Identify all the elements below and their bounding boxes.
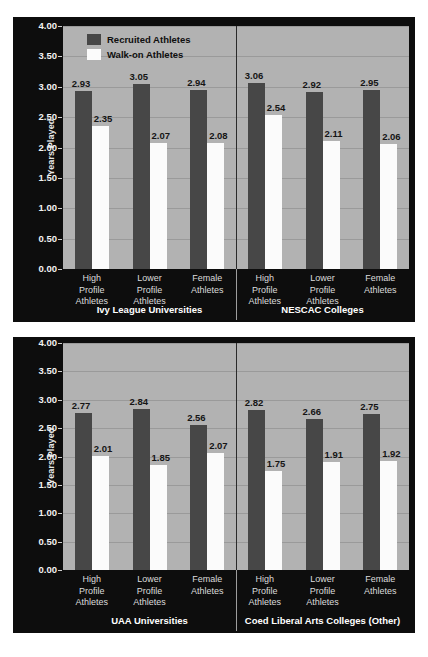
bar-walkon [207,453,224,570]
bar-value-label: 2.54 [267,103,286,113]
bar-walkon [207,143,224,269]
y-axis-tick-mark [58,485,62,486]
bar-value-label: 2.35 [94,114,113,124]
legend-item: Walk-on Athletes [87,48,191,61]
bar-value-label: 2.82 [245,398,264,408]
bar-value-label: 2.08 [209,131,228,141]
bar-value-label: 2.93 [72,79,91,89]
y-axis-tick-label: 1.00 [19,509,57,519]
bar-walkon [265,115,282,269]
legend-swatch-recruited [87,34,101,45]
bar-recruited [75,413,92,570]
bar-recruited [75,91,92,269]
legend-label: Walk-on Athletes [107,49,183,60]
y-axis-tick-mark [58,371,62,372]
x-axis-category-label: Female Athletes [351,273,409,296]
bar-value-label: 2.66 [303,407,322,417]
bar-recruited [248,410,265,570]
y-axis-tick-label: 4.00 [19,338,57,348]
y-axis-tick-mark [58,428,62,429]
y-axis-tick-label: 0.50 [19,234,57,244]
bar-walkon [92,126,109,269]
legend-swatch-walkon [87,49,101,60]
x-axis-category-label: Female Athletes [178,273,236,296]
x-axis-category-label: Female Athletes [178,574,236,597]
y-axis-tick-label: 4.00 [19,21,57,31]
bar-value-label: 2.06 [382,132,401,142]
y-axis-tick-mark [58,148,62,149]
y-axis-tick-label: 3.00 [19,82,57,92]
group-title: UAA Universities [63,615,236,626]
y-axis-tick-label: 3.00 [19,395,57,405]
bar-value-label: 2.07 [209,441,228,451]
bar-walkon [92,456,109,570]
bar-recruited [190,425,207,570]
bar-value-label: 2.94 [187,78,206,88]
bar-value-label: 2.01 [94,444,113,454]
bar-recruited [363,90,380,269]
bar-walkon [380,461,397,570]
bar-walkon [150,465,167,570]
bar-value-label: 2.77 [72,401,91,411]
bar-value-label: 3.05 [130,72,149,82]
legend-item: Recruited Athletes [87,33,191,46]
y-axis-tick-label: 3.50 [19,52,57,62]
y-axis-tick-mark [58,178,62,179]
x-axis-category-label: High Profile Athletes [63,574,121,609]
y-axis-tick-label: 1.50 [19,480,57,490]
y-axis-tick-mark [58,542,62,543]
y-axis-tick-label: 2.50 [19,423,57,433]
bar-recruited [306,92,323,269]
y-axis-tick-mark [58,457,62,458]
y-axis-tick-mark [58,26,62,27]
y-axis-tick-label: 0.50 [19,537,57,547]
bar-value-label: 1.85 [152,453,171,463]
chart-legend: Recruited AthletesWalk-on Athletes [87,33,191,63]
bar-value-label: 2.07 [152,131,171,141]
y-axis-tick-mark [58,513,62,514]
y-axis-tick-mark [58,570,62,571]
y-axis-tick-mark [58,269,62,270]
bar-walkon [323,462,340,570]
y-axis-tick-label: 2.00 [19,143,57,153]
bar-value-label: 1.91 [325,450,344,460]
bar-value-label: 3.06 [245,71,264,81]
y-axis-tick-mark [58,239,62,240]
group-title: Ivy League Universities [63,304,236,315]
bar-value-label: 2.92 [303,80,322,90]
bar-walkon [265,471,282,570]
y-axis-tick-mark [58,56,62,57]
panel-divider [236,343,237,570]
x-axis-category-label: High Profile Athletes [236,574,294,609]
y-axis-tick-label: 2.50 [19,112,57,122]
y-axis-tick-mark [58,117,62,118]
x-axis-category-label: Lower Profile Athletes [121,574,179,609]
bar-value-label: 2.84 [130,397,149,407]
y-axis-tick-mark [58,400,62,401]
bar-value-label: 1.92 [382,449,401,459]
x-axis-category-label: Lower Profile Athletes [294,574,352,609]
bar-value-label: 2.56 [187,413,206,423]
y-axis-tick-label: 0.00 [19,565,57,575]
x-axis-category-label: Female Athletes [351,574,409,597]
y-axis-tick-label: 1.50 [19,173,57,183]
legend-label: Recruited Athletes [107,34,191,45]
x-axis-category-label: Lower Profile Athletes [121,273,179,308]
y-axis-tick-mark [58,208,62,209]
bar-value-label: 1.75 [267,459,286,469]
panel-divider [236,26,237,269]
y-axis-tick-label: 1.00 [19,204,57,214]
y-axis-tick-mark [58,343,62,344]
bar-recruited [306,419,323,570]
plot-area: 2.772.012.841.852.562.072.821.752.661.91… [63,343,409,570]
x-axis-category-label: Lower Profile Athletes [294,273,352,308]
bar-walkon [150,143,167,269]
group-title: NESCAC Colleges [236,304,409,315]
bar-value-label: 2.95 [360,78,379,88]
y-axis-tick-label: 3.50 [19,367,57,377]
chart-panel-1: Years Played2.932.353.052.072.942.083.06… [13,17,415,322]
bar-value-label: 2.75 [360,402,379,412]
bar-recruited [248,83,265,269]
y-axis-tick-label: 0.00 [19,264,57,274]
bar-recruited [190,90,207,269]
